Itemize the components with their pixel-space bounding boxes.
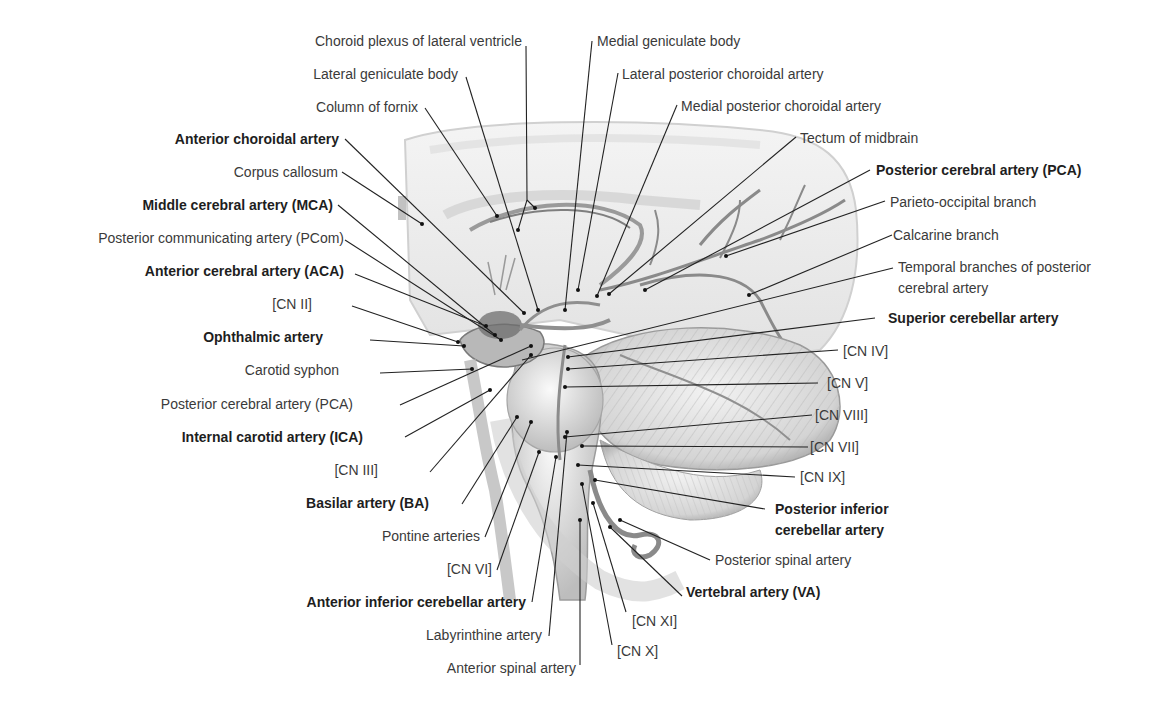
label-choroid-plexus: Choroid plexus of lateral ventricle xyxy=(315,33,522,50)
brain-illustration xyxy=(0,0,1168,717)
label-lateral-geniculate-body: Lateral geniculate body xyxy=(313,66,458,83)
label-cn-v: [CN V] xyxy=(827,375,868,392)
label-anterior-choroidal-artery: Anterior choroidal artery xyxy=(175,131,339,148)
label-cn-vii: [CN VII] xyxy=(810,439,859,456)
label-vertebral-artery: Vertebral artery (VA) xyxy=(686,584,820,601)
label-temporal-branches-line2: cerebral artery xyxy=(898,280,988,297)
label-temporal-branches-line1: Temporal branches of posterior xyxy=(898,259,1091,276)
label-posterior-communicating-artery: Posterior communicating artery (PCom) xyxy=(98,230,344,247)
label-corpus-callosum: Corpus callosum xyxy=(234,164,338,181)
label-lateral-posterior-choroidal-artery: Lateral posterior choroidal artery xyxy=(622,66,824,83)
label-pontine-arteries: Pontine arteries xyxy=(382,528,480,545)
label-cn-x: [CN X] xyxy=(617,643,658,660)
label-pica-line2: cerebellar artery xyxy=(775,522,884,539)
label-anterior-cerebral-artery: Anterior cerebral artery (ACA) xyxy=(145,263,344,280)
label-anterior-spinal-artery: Anterior spinal artery xyxy=(447,660,576,677)
label-internal-carotid-artery: Internal carotid artery (ICA) xyxy=(182,429,363,446)
label-medial-posterior-choroidal-artery: Medial posterior choroidal artery xyxy=(681,98,881,115)
label-cn-xi: [CN XI] xyxy=(632,613,677,630)
label-cn-vi: [CN VI] xyxy=(447,561,492,578)
label-calcarine-branch: Calcarine branch xyxy=(893,227,999,244)
label-posterior-cerebral-artery-left: Posterior cerebral artery (PCA) xyxy=(161,396,353,413)
label-cn-iii: [CN III] xyxy=(334,462,378,479)
label-labyrinthine-artery: Labyrinthine artery xyxy=(426,627,542,644)
label-pica-line1: Posterior inferior xyxy=(775,501,889,518)
label-middle-cerebral-artery: Middle cerebral artery (MCA) xyxy=(142,197,333,214)
label-cn-ii: [CN II] xyxy=(272,296,312,313)
label-tectum-of-midbrain: Tectum of midbrain xyxy=(800,130,918,147)
label-column-of-fornix: Column of fornix xyxy=(316,99,418,116)
label-cn-iv: [CN IV] xyxy=(843,343,888,360)
label-anterior-inferior-cerebellar-artery: Anterior inferior cerebellar artery xyxy=(307,594,526,611)
label-cn-ix: [CN IX] xyxy=(800,469,845,486)
label-parieto-occipital-branch: Parieto-occipital branch xyxy=(890,194,1036,211)
label-superior-cerebellar-artery: Superior cerebellar artery xyxy=(888,310,1058,327)
cerebrum-shape xyxy=(398,122,858,360)
label-ophthalmic-artery: Ophthalmic artery xyxy=(203,329,323,346)
label-medial-geniculate-body: Medial geniculate body xyxy=(597,33,740,50)
label-basilar-artery: Basilar artery (BA) xyxy=(306,495,429,512)
label-carotid-syphon: Carotid syphon xyxy=(245,362,339,379)
label-posterior-cerebral-artery-right: Posterior cerebral artery (PCA) xyxy=(876,162,1081,179)
label-posterior-spinal-artery: Posterior spinal artery xyxy=(715,552,851,569)
label-cn-viii: [CN VIII] xyxy=(815,407,868,424)
